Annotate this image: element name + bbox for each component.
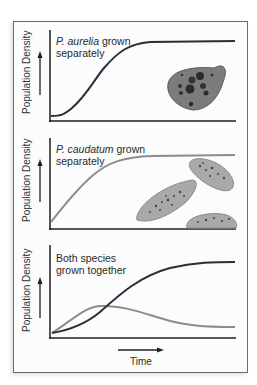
panel-1-title: P. aurelia grown separately — [56, 35, 131, 59]
y-axis-label-panel-1: Population Density — [21, 31, 32, 114]
p-caudatum-cells-image — [137, 159, 237, 228]
panel-2-title: P. caudatum grown separately — [56, 143, 145, 167]
up-arrow-icon — [38, 51, 43, 95]
species-name: P. aurelia — [56, 35, 99, 47]
time-arrow-icon — [118, 348, 164, 353]
up-arrow-icon — [38, 277, 43, 318]
panel-3-title: Both species grown together — [56, 252, 126, 276]
y-axis-label-panel-3: Population Density — [21, 249, 32, 332]
p-aurelia-cell-image — [168, 66, 226, 110]
x-axis-label: Time — [130, 356, 152, 367]
p-caudatum-together-curve — [52, 306, 235, 333]
up-arrow-icon — [38, 159, 43, 202]
species-name: P. caudatum — [56, 143, 114, 155]
y-axis-label-panel-2: Population Density — [21, 139, 32, 222]
